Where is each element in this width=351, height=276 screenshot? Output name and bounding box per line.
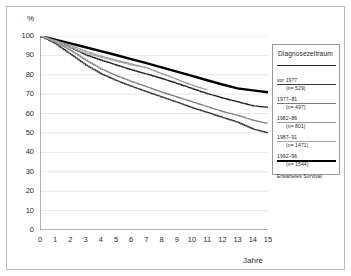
chart-page: % Jahre 0102030405060708090100 012345678… <box>0 0 351 276</box>
y-tick-label: 100 <box>16 32 34 40</box>
y-tick-label: 10 <box>16 207 34 215</box>
x-tick-label: 15 <box>261 236 275 244</box>
series-line <box>40 36 268 133</box>
x-tick-label: 0 <box>33 236 47 244</box>
y-tick-label: 30 <box>16 168 34 176</box>
x-tick-label: 14 <box>246 236 260 244</box>
x-tick-label: 8 <box>155 236 169 244</box>
legend-item-label: Erwartetes Survival <box>277 173 322 179</box>
legend-swatch <box>277 141 336 142</box>
survival-curves <box>40 36 268 230</box>
y-tick-label: 60 <box>16 110 34 118</box>
y-tick-label: 0 <box>16 226 34 234</box>
y-tick-label: 90 <box>16 51 34 59</box>
x-tick-label: 3 <box>79 236 93 244</box>
x-tick-label: 12 <box>215 236 229 244</box>
y-tick-label: 50 <box>16 129 34 137</box>
x-tick-label: 13 <box>231 236 245 244</box>
x-tick-label: 10 <box>185 236 199 244</box>
x-tick-label: 6 <box>124 236 138 244</box>
x-tick-label: 1 <box>48 236 62 244</box>
legend-swatch <box>277 65 336 66</box>
x-axis-title: Jahre <box>243 256 263 265</box>
legend-swatch <box>277 103 336 104</box>
x-tick-label: 2 <box>63 236 77 244</box>
x-tick-label: 7 <box>139 236 153 244</box>
legend-swatch <box>277 84 336 85</box>
x-tick-label: 5 <box>109 236 123 244</box>
legend-item-expected[interactable]: Erwartetes Survival <box>277 160 337 182</box>
y-tick-label: 80 <box>16 71 34 79</box>
y-tick-label: 40 <box>16 148 34 156</box>
legend-swatch <box>277 122 336 123</box>
x-tick-label: 11 <box>200 236 214 244</box>
y-tick-label: 20 <box>16 187 34 195</box>
legend-box: Diagnosezeitraum vor 1977(n= 529)1977–81… <box>272 44 340 175</box>
plot-area <box>40 36 268 230</box>
x-tick-label: 4 <box>94 236 108 244</box>
x-tick-label: 9 <box>170 236 184 244</box>
y-axis-title: % <box>27 14 34 23</box>
series-line <box>40 36 268 92</box>
legend-title: Diagnosezeitraum <box>278 50 333 57</box>
y-tick-label: 70 <box>16 90 34 98</box>
legend-swatch <box>277 160 336 162</box>
